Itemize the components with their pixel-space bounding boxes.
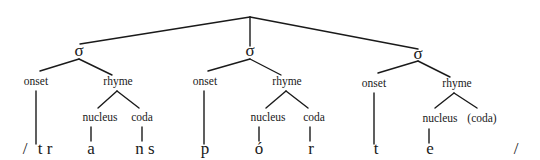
segment-nucleus-1: a bbox=[87, 140, 95, 157]
segment-nucleus-2: ó bbox=[255, 140, 264, 157]
nucleus-label-3: nucleus bbox=[422, 113, 457, 125]
segment-coda-2: r bbox=[308, 140, 314, 157]
branch-s1-coda bbox=[117, 91, 139, 108]
sigma-node-2: σ bbox=[245, 42, 254, 59]
nucleus-label-2: nucleus bbox=[250, 112, 285, 124]
onset-label-1: onset bbox=[24, 76, 48, 88]
sigma-node-3: σ bbox=[413, 45, 422, 62]
branch-s3-rhyme bbox=[418, 61, 450, 77]
branch-s3-coda bbox=[454, 93, 477, 108]
branch-s2-coda bbox=[286, 91, 308, 108]
syllable-tree-diagram: σ onset rhyme nucleus coda σ onset rhyme… bbox=[0, 0, 540, 160]
coda-label-2: coda bbox=[303, 112, 325, 124]
coda-label-3: (coda) bbox=[467, 113, 496, 125]
onset-label-3: onset bbox=[362, 78, 386, 90]
branch-s2-onset bbox=[208, 59, 250, 71]
branch-s1-onset bbox=[40, 59, 79, 71]
branch-root-sigma1 bbox=[80, 17, 250, 44]
close-bracket: / bbox=[514, 140, 519, 157]
rhyme-label-1: rhyme bbox=[103, 76, 132, 88]
sigma-node-1: σ bbox=[74, 42, 83, 59]
branch-s3-onset bbox=[378, 61, 418, 73]
rhyme-label-2: rhyme bbox=[272, 76, 301, 88]
segment-onset-3: t bbox=[374, 140, 379, 157]
segment-onset-2: p bbox=[201, 140, 210, 157]
segment-coda-1: n s bbox=[135, 140, 154, 157]
nucleus-label-1: nucleus bbox=[82, 112, 117, 124]
segment-nucleus-3: e bbox=[426, 140, 434, 157]
rhyme-label-3: rhyme bbox=[442, 78, 471, 90]
branch-s2-rhyme bbox=[250, 59, 281, 75]
branch-s1-nucleus bbox=[98, 91, 117, 108]
branch-s3-nucleus bbox=[435, 93, 454, 108]
branch-s2-nucleus bbox=[266, 91, 286, 108]
segment-onset-1: t r bbox=[38, 140, 53, 157]
branch-s1-rhyme bbox=[79, 59, 112, 75]
branch-root-sigma3 bbox=[250, 17, 418, 49]
onset-label-2: onset bbox=[193, 76, 217, 88]
open-bracket: / bbox=[23, 140, 28, 157]
coda-label-1: coda bbox=[131, 112, 153, 124]
